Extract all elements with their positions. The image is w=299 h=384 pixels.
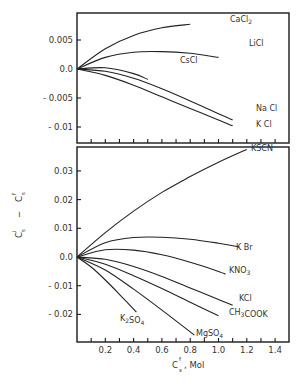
y-tick-label: 0.0 (59, 64, 73, 74)
chart-figure: 0.0050.0- 0.005- 0.01 CaCl2LiClCsClNa Cl… (0, 0, 299, 384)
y-axis-label: C i s − C fs (11, 192, 26, 238)
svg-text:i: i (11, 230, 17, 232)
series-label-cscl: CsCl (180, 56, 198, 65)
series-kscn-line (77, 149, 247, 257)
series-label-kcl: KCl (239, 294, 252, 303)
series-kcl-line (77, 69, 233, 126)
series-nacl-line (77, 69, 233, 120)
series-label-ch3cook: CH3COOK (229, 308, 269, 319)
y-tick-label: - 0.005 (43, 93, 73, 103)
svg-text:s: s (179, 367, 182, 373)
series-label-kno3: KNO3 (229, 266, 251, 276)
series-cacl2-line (77, 24, 190, 69)
svg-text:C: C (14, 196, 24, 202)
x-tick-label: 1.2 (240, 345, 254, 355)
y-tick-label: - 0.01 (48, 122, 73, 132)
series-label-kcl: K Cl (256, 120, 272, 129)
x-tick-label: 0.8 (183, 345, 197, 355)
y-tick-label: 0.02 (54, 195, 73, 205)
series-kno3-line (77, 249, 226, 274)
x-tick-label: 0.2 (99, 345, 113, 355)
x-tick-label: 0.6 (155, 345, 169, 355)
svg-text:C: C (172, 360, 178, 370)
series-label-kbr: K Br (236, 243, 253, 252)
svg-text:, Mol: , Mol (184, 360, 204, 370)
lower-x-ticks: 0.20.40.60.81.01.21.4 (91, 338, 282, 355)
svg-text:−: − (14, 211, 24, 218)
upper-series: CaCl2LiClCsClNa ClK Cl (77, 15, 277, 129)
x-tick-label: 1.0 (212, 345, 226, 355)
x-tick-label: 1.4 (268, 345, 282, 355)
x-tick-label: 0.4 (127, 345, 141, 355)
svg-text:s: s (20, 192, 26, 195)
series-label-mgso4: MgSO4 (196, 329, 223, 339)
y-tick-label: 0.005 (49, 35, 73, 45)
series-label-cacl2: CaCl2 (230, 15, 252, 25)
svg-text:f: f (179, 356, 182, 362)
series-label-licl: LiCl (249, 39, 264, 48)
y-tick-label: 0.03 (54, 166, 73, 176)
y-tick-label: - 0.02 (48, 309, 73, 319)
y-tick-label: 0.01 (54, 223, 73, 233)
lower-y-ticks: 0.030.020.010.0- 0.01- 0.02 (48, 166, 81, 320)
series-label-nacl: Na Cl (256, 104, 277, 113)
lower-series: KSCNK BrKNO3KClCH3COOKMgSO4K2SO4 (77, 144, 273, 339)
series-label-k2so4: K2SO4 (120, 314, 144, 326)
y-tick-label: - 0.01 (48, 281, 73, 291)
upper-y-ticks: 0.0050.0- 0.005- 0.01 (43, 35, 81, 132)
x-axis-label: C f s , Mol (172, 356, 204, 373)
series-kcl-line (77, 257, 233, 305)
series-label-kscn: KSCN (251, 144, 273, 153)
svg-text:s: s (20, 229, 26, 232)
y-tick-label: 0.0 (59, 252, 73, 262)
svg-text:f: f (11, 192, 17, 195)
